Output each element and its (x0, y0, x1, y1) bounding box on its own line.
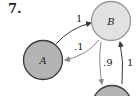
arrow-b-to-c-icon (100, 42, 102, 84)
edge-c-to-b: 1 (120, 42, 133, 84)
node-c-circle (93, 86, 132, 97)
edge-label-b-to-c: .9 (103, 57, 113, 68)
node-a-label: A (38, 55, 46, 66)
node-b: B (92, 2, 131, 41)
figure: 7. 1 .1 .9 1 (0, 0, 136, 96)
edge-b-to-a: .1 (65, 40, 99, 60)
edge-a-to-b: 1 (56, 13, 91, 44)
edge-label-c-to-b: 1 (127, 57, 133, 68)
edge-b-to-c: .9 (100, 42, 113, 84)
node-a: A (24, 41, 63, 80)
node-b-label: B (106, 16, 114, 27)
arrow-c-to-b-icon (120, 42, 123, 84)
edge-label-a-to-b: 1 (76, 13, 82, 24)
problem-number: 7. (8, 1, 22, 16)
edge-label-b-to-a: .1 (74, 41, 84, 52)
node-c (93, 86, 132, 97)
